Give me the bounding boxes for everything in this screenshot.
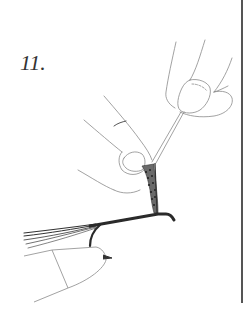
illustration-page: 11. xyxy=(0,0,251,311)
vise-jaws-icon xyxy=(24,247,112,302)
tail-fibers-icon xyxy=(24,224,96,248)
hackle-feather-icon xyxy=(142,163,158,213)
right-margin-rule xyxy=(241,0,243,303)
upper-hand-icon xyxy=(152,40,232,163)
hook-icon xyxy=(90,214,174,246)
fly-tying-illustration xyxy=(0,0,251,311)
lower-hand-icon xyxy=(78,96,152,193)
